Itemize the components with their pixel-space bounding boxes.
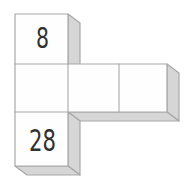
label-bottom-square: 28 <box>29 122 56 158</box>
bottom-square-right-face <box>68 112 80 175</box>
arm-right-face <box>167 64 179 121</box>
arm-bottom-face <box>68 112 179 121</box>
bottom-square-bottom-face <box>15 166 80 175</box>
figure-canvas: 8 28 <box>0 0 192 189</box>
label-top-square: 8 <box>36 22 49 55</box>
t-shaped-solid-figure: 8 28 <box>0 0 192 189</box>
